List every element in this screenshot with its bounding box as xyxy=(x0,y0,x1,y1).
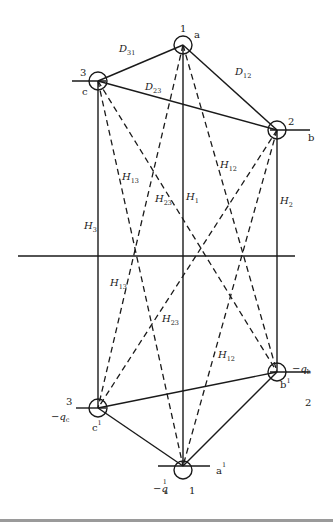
label-h2: H2 xyxy=(279,195,293,209)
label-charge-qa1: −q1a xyxy=(153,478,168,496)
label-h12-upper: H12 xyxy=(219,159,237,173)
label-node-3-bottom: 3 xyxy=(66,396,72,407)
label-h23-upper: H23 xyxy=(154,193,172,207)
label-h13-upper: H13 xyxy=(121,171,139,185)
label-h23-lower: H23 xyxy=(161,313,179,327)
dashed-a-to-b1 xyxy=(183,45,277,372)
dashed-c-to-a1 xyxy=(98,81,183,466)
label-h12-lower: H12 xyxy=(217,349,235,363)
label-phase-c-top: c xyxy=(82,86,88,97)
label-node-2-bottom: 2 xyxy=(305,397,311,408)
label-phase-c1: c1 xyxy=(92,419,102,433)
label-node-1-bottom: 1 xyxy=(189,485,195,496)
label-node-3-top: 3 xyxy=(80,67,86,78)
dashed-a-to-c1 xyxy=(98,45,183,408)
label-charge-qc: −qc xyxy=(51,411,70,424)
edge-image-23 xyxy=(98,372,277,408)
edge-image-12 xyxy=(183,372,277,466)
label-h13-lower: H13 xyxy=(109,277,127,291)
dashed-b-to-a1 xyxy=(183,130,277,466)
label-phase-a1: a1 xyxy=(216,461,226,476)
label-charge-qb: −qb xyxy=(292,363,311,376)
conductor-image-diagram: 1 a 3 c 2 b D31 D12 D23 H12 H13 H23 H1 H… xyxy=(0,0,333,522)
label-node-2-top: 2 xyxy=(288,116,294,127)
label-phase-b-top: b xyxy=(308,132,314,143)
label-node-1-top: 1 xyxy=(180,23,186,34)
label-d12: D12 xyxy=(234,66,251,80)
label-d31: D31 xyxy=(118,43,135,57)
edge-d31 xyxy=(98,45,183,81)
label-phase-a-top: a xyxy=(194,29,200,40)
edge-image-31 xyxy=(98,408,183,466)
label-h1: H1 xyxy=(185,191,199,205)
label-d23: D23 xyxy=(144,81,161,95)
label-phase-b1: b1 xyxy=(280,377,291,390)
label-h3: H3 xyxy=(83,220,97,234)
